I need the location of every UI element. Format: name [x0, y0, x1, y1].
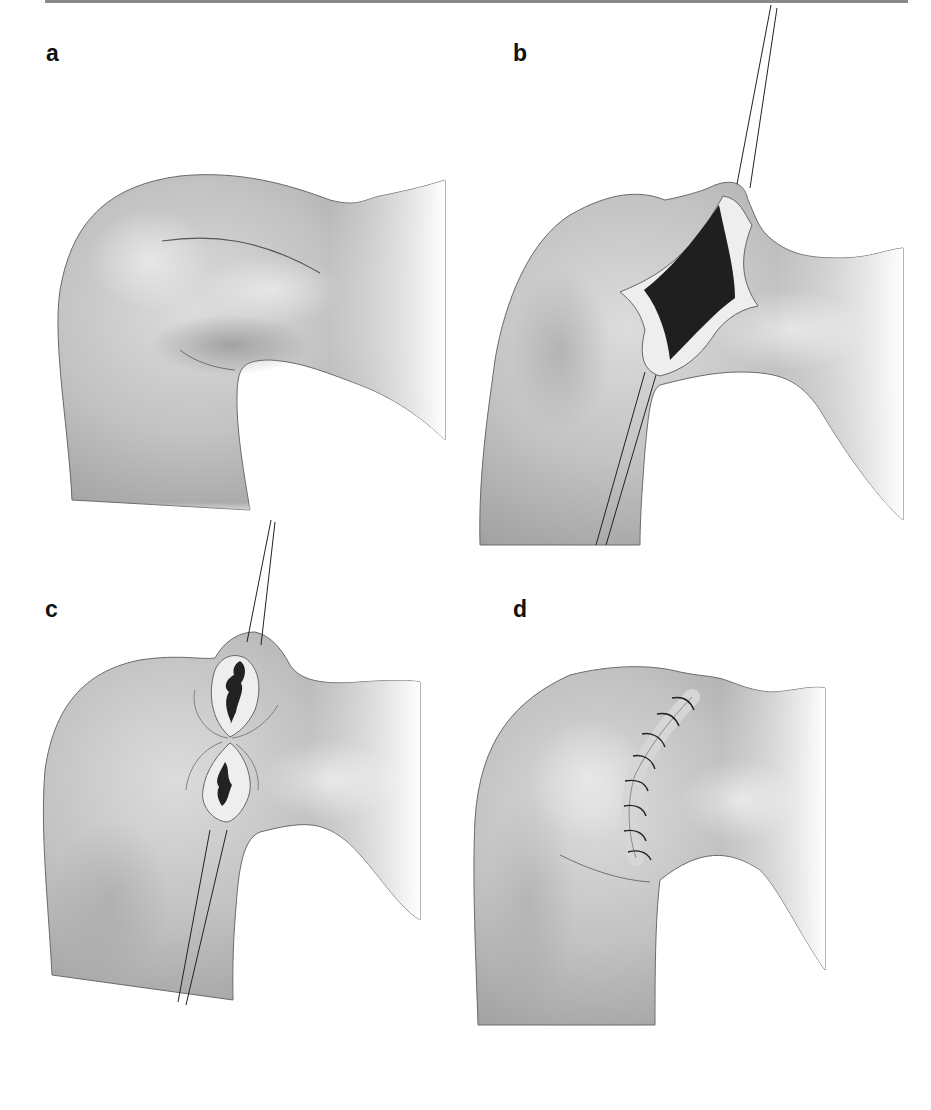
- retraction-suture-top-1: [737, 5, 771, 184]
- retraction-suture-top-2: [750, 8, 777, 188]
- panel-b-illustration: [480, 5, 903, 545]
- retraction-suture-top-2: [261, 522, 275, 645]
- figure-illustration: [0, 0, 931, 1110]
- retraction-suture-top-1: [247, 520, 271, 642]
- panel-a-illustration: [58, 175, 445, 510]
- panel-d-illustration: [474, 667, 825, 1025]
- panel-c-illustration: [43, 520, 420, 1005]
